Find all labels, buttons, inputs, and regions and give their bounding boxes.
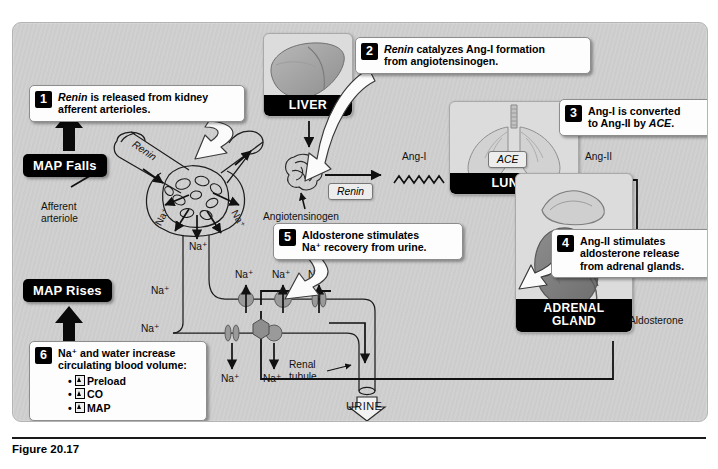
map-rises-up-arrow <box>55 306 83 345</box>
callout-6-line2: circulating blood volume: <box>58 359 187 371</box>
organ-caption-adrenal-gland: ADRENAL GLAND <box>516 299 632 332</box>
adrenal-caption-line2: GLAND <box>552 314 596 328</box>
callout-text-1: Renin is released from kidney afferent a… <box>58 91 208 116</box>
sodium-label-descending-2: Na⁺ <box>141 323 159 335</box>
bullet-dot: • <box>68 388 75 402</box>
callout-3-line2-post: . <box>671 117 674 129</box>
callout-2-line1-rest: catalyzes Ang-I formation <box>413 43 544 55</box>
renal-tubule-line1: Renal <box>289 359 316 370</box>
callout-2-line2: from angiotensinogen. <box>384 55 498 67</box>
sodium-label-glom-bottom: Na⁺ <box>189 241 207 253</box>
label-aldosterone: Aldosterone <box>629 315 683 327</box>
callout-6-bullet-map-label: MAP <box>87 402 111 414</box>
callout-text-3: Ang-I is converted to Ang-II by ACE. <box>588 105 680 130</box>
callout-6-bullet-list: •Preload •CO •MAP <box>68 375 187 416</box>
callout-6-bullet-preload: •Preload <box>68 375 187 389</box>
callout-2-emphasis: Renin <box>384 43 413 55</box>
callout-1-pointer <box>195 121 233 159</box>
callout-number-2: 2 <box>361 43 378 60</box>
sodium-transporters <box>225 291 326 341</box>
map-rises-badge: MAP Rises <box>23 279 112 302</box>
callout-6-bullet-map: •MAP <box>68 402 187 416</box>
callout-box-5[interactable]: 5 Aldosterone stimulates Na⁺ recovery fr… <box>273 223 463 260</box>
callout-1-emphasis: Renin <box>58 91 87 103</box>
callout-1-line2: afferent arterioles. <box>58 103 150 115</box>
sodium-label-glom-right: Na⁺ <box>229 208 248 230</box>
caption-divider <box>12 437 706 439</box>
label-ang-i: Ang-I <box>402 151 426 163</box>
aldosterone-tubule-feed <box>261 291 331 305</box>
sodium-label-tubule-bottom-2: Na⁺ <box>263 373 281 385</box>
callout-3-line2-pre: to Ang-II by <box>588 117 649 129</box>
renal-tubule-line2: tubule <box>289 371 317 382</box>
callout-number-4: 4 <box>557 235 574 252</box>
adrenal-caption-line1: ADRENAL <box>544 301 605 315</box>
renal-tubule-pointer <box>327 365 351 371</box>
callout-box-3[interactable]: 3 Ang-I is converted to Ang-II by ACE. <box>559 99 708 136</box>
callout-box-2[interactable]: 2 Renin catalyzes Ang-I formation from a… <box>355 37 591 74</box>
bullet-dot: • <box>68 402 75 416</box>
callout-6-bullet-co-label: CO <box>87 388 103 400</box>
bullet-dot: • <box>68 375 75 389</box>
callout-number-3: 3 <box>565 105 582 122</box>
callout-text-6: Na⁺ and water increase circulating blood… <box>58 347 187 415</box>
sodium-label-glom-left: Na⁺ <box>153 206 172 228</box>
callout-6-bullet-preload-label: Preload <box>87 375 126 387</box>
callout-box-1[interactable]: 1 Renin is released from kidney afferent… <box>29 85 245 122</box>
callout-4-line1: Ang-II stimulates <box>580 235 665 247</box>
map-falls-badge: MAP Falls <box>23 154 107 177</box>
callout-5-line2: Na⁺ recovery from urine. <box>302 241 427 253</box>
aldosterone-hexagon-left <box>253 319 269 339</box>
label-ang-ii-lungs: Ang-II <box>585 151 612 163</box>
label-renal-tubule: Renal tubule <box>289 359 317 382</box>
glomerulus-graphic <box>114 131 263 333</box>
callout-6-line1: Na⁺ and water increase <box>58 347 175 359</box>
ang-i-squiggle <box>394 176 444 183</box>
organ-panel-liver: LIVER <box>263 33 353 117</box>
label-angiotensinogen: Angiotensinogen <box>263 211 339 223</box>
afferent-arteriole-line1: Afferent <box>41 201 77 212</box>
callout-number-6: 6 <box>35 347 52 364</box>
callout-box-6[interactable]: 6 Na⁺ and water increase circulating blo… <box>29 341 207 421</box>
diagram-panel: LIVER LUNGS <box>12 22 708 422</box>
sodium-label-tubule-top-2: Na⁺ <box>272 269 290 281</box>
angiotensinogen-molecule <box>286 154 323 190</box>
label-afferent-arteriole: Afferent arteriole <box>41 201 78 224</box>
callout-3-emphasis: ACE <box>649 117 671 129</box>
up-arrow-icon <box>75 388 85 399</box>
sodium-label-descending-1: Na⁺ <box>151 285 169 297</box>
callout-number-5: 5 <box>279 229 296 246</box>
enzyme-box-ace: ACE <box>488 151 527 168</box>
up-arrow-icon <box>75 375 85 386</box>
callout-5-line1: Aldosterone stimulates <box>302 229 419 241</box>
callout-4-line2: aldosterone release <box>580 247 680 259</box>
callout-4-line3: from adrenal glands. <box>580 260 684 272</box>
organ-caption-liver: LIVER <box>264 95 352 116</box>
label-renin-vessel: Renin <box>130 139 159 163</box>
angiotensinogen-pointer <box>301 193 305 209</box>
callout-text-2: Renin catalyzes Ang-I formation from ang… <box>384 43 545 68</box>
label-urine: URINE <box>346 401 382 413</box>
callout-3-line1: Ang-I is converted <box>588 105 680 117</box>
sodium-label-tubule-top-3: Na⁺ <box>308 269 326 281</box>
enzyme-box-renin: Renin <box>328 183 373 200</box>
callout-number-1: 1 <box>35 91 52 108</box>
afferent-arteriole-line2: arteriole <box>41 213 78 224</box>
callout-6-bullet-co: •CO <box>68 388 187 402</box>
sodium-label-tubule-bottom-1: Na⁺ <box>221 373 239 385</box>
callout-text-4: Ang-II stimulates aldosterone release fr… <box>580 235 684 272</box>
callout-1-line1-rest: is released from kidney <box>87 91 208 103</box>
callout-box-4[interactable]: 4 Ang-II stimulates aldosterone release … <box>551 229 708 278</box>
up-arrow-icon <box>75 402 85 413</box>
figure-caption: Figure 20.17 <box>12 443 79 455</box>
sodium-label-tubule-top-1: Na⁺ <box>235 269 253 281</box>
callout-text-5: Aldosterone stimulates Na⁺ recovery from… <box>302 229 427 254</box>
figure-page: LIVER LUNGS <box>0 0 718 469</box>
